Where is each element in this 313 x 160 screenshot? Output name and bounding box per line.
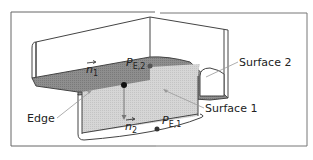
label-surface-2: Surface 2: [239, 56, 291, 69]
label-surface-1: Surface 1: [205, 102, 257, 115]
edge-diagram: n1 PE,2 n2 PE,1 Surface 2 Surface 1 Edge: [0, 0, 313, 160]
point-pe1: [155, 127, 160, 132]
label-edge: Edge: [27, 112, 55, 125]
edge-point: [121, 82, 127, 88]
point-pe2: [148, 64, 153, 69]
label-n1: n1: [86, 63, 98, 78]
